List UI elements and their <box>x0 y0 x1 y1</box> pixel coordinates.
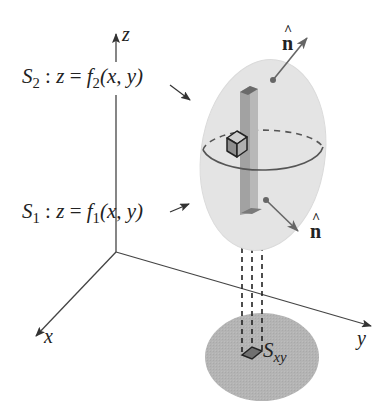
upper-surface-label: S2 : z = f2(x, y) <box>22 66 143 91</box>
surface-subscript: 2 <box>33 75 40 91</box>
surface-name: S <box>22 199 33 223</box>
equals: = <box>64 199 86 223</box>
hat-symbol: ^ <box>312 212 320 226</box>
hat-symbol: ^ <box>284 24 292 38</box>
projection-disk <box>205 313 319 401</box>
separator: : <box>40 64 56 88</box>
y-axis-label: y <box>357 328 366 348</box>
leader-arrow-s1 <box>170 204 189 212</box>
y-axis <box>116 252 371 326</box>
projection-name: S <box>263 338 274 362</box>
x-axis <box>36 252 116 336</box>
function-args: (x, y) <box>100 199 143 223</box>
surface-integral-figure: z x y S2 : z = f2(x, y) S1 : z = f1(x, y… <box>0 0 392 418</box>
normal-label-bottom: ^n <box>310 221 321 241</box>
x-axis-label: x <box>44 326 53 346</box>
function-subscript: 1 <box>93 210 100 226</box>
surface-subscript: 1 <box>33 210 40 226</box>
function-args: (x, y) <box>100 64 143 88</box>
projection-label: Sxy <box>263 340 287 365</box>
normal-label-top: ^n <box>282 33 293 53</box>
lower-surface-label: S1 : z = f1(x, y) <box>22 201 143 226</box>
surface-name: S <box>22 64 33 88</box>
separator: : <box>40 199 56 223</box>
projection-subscript: xy <box>274 349 287 365</box>
leader-arrow-s2 <box>170 85 190 100</box>
function-subscript: 2 <box>93 75 100 91</box>
z-axis-label: z <box>122 24 130 44</box>
equals: = <box>64 64 86 88</box>
